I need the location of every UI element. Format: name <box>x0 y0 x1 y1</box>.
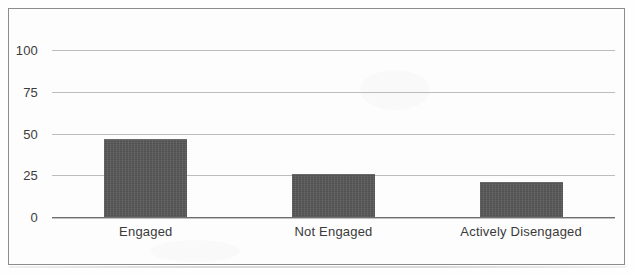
bar-actively-disengaged[interactable] <box>480 182 563 217</box>
y-axis-tick-label: 50 <box>0 126 38 141</box>
gridline-100 <box>52 50 615 51</box>
gridline-75 <box>52 92 615 93</box>
y-axis-tick-label: 75 <box>0 84 38 99</box>
x-axis-category-label: Engaged <box>52 224 240 239</box>
y-axis-tick-label: 25 <box>0 168 38 183</box>
y-axis-tick-label: 100 <box>0 43 38 58</box>
y-axis-tick-label: 0 <box>0 210 38 225</box>
chart-figure: 100 75 50 25 0 Engaged Not Engaged Activ… <box>0 0 634 277</box>
x-axis-baseline <box>52 217 615 218</box>
bar-engaged[interactable] <box>104 139 187 217</box>
x-axis-category-label: Actively Disengaged <box>427 224 615 239</box>
bar-not-engaged[interactable] <box>292 174 375 217</box>
chart-frame-shadow <box>9 266 626 268</box>
x-axis-category-label: Not Engaged <box>240 224 428 239</box>
plot-area <box>52 50 615 217</box>
gridline-50 <box>52 134 615 135</box>
